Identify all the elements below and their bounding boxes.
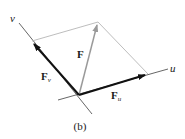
resultant-vector-f: [79, 25, 97, 95]
resultant-label-f: F: [77, 48, 84, 60]
fv-label-subscript: v: [48, 76, 52, 84]
vector-decomposition-diagram: v u F Fv Fu (b): [0, 0, 185, 139]
component-label-fu: Fu: [111, 89, 122, 103]
construction-line-f-to-fu: [98, 22, 148, 74]
component-label-fv: Fv: [41, 70, 52, 84]
figure-caption: (b): [74, 120, 87, 133]
construction-line-fv-to-f: [32, 22, 98, 41]
v-axis-label: v: [10, 12, 15, 24]
fu-label-subscript: u: [118, 95, 122, 103]
u-axis-label: u: [170, 62, 176, 74]
